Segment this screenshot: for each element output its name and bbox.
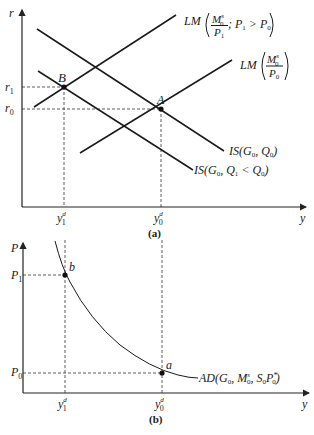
svg-text:LM: LM: [239, 58, 258, 72]
islm-ad-diagram: r y B A r1 r0 yd1 yd0 LM Ms0 P1 ; P1 > P…: [0, 0, 314, 435]
y-axis-label-b: y: [301, 397, 308, 411]
svg-text:LM: LM: [183, 14, 202, 28]
y1d-label-a: yd1: [56, 210, 66, 227]
y1d-label-b: yd1: [57, 396, 67, 413]
ad-label: AD(G0, Ms0, S0P*0): [198, 371, 280, 386]
caption-a: (a): [148, 227, 161, 240]
is0-label: IS(G0, Q0): [228, 144, 277, 159]
point-a-small-marker: [159, 370, 164, 375]
p1-label: P1: [10, 268, 22, 284]
y0d-label-a: yd0: [153, 210, 163, 227]
y0d-label-b: yd0: [154, 396, 164, 413]
is0-curve: [37, 29, 224, 151]
point-a-small-label: a: [166, 358, 172, 372]
point-a-marker: [158, 106, 163, 111]
is1-curve: [38, 71, 193, 170]
panel-b: P y b a P1 P0 yd1 yd0 AD(G0, Ms0, S0P*0)…: [10, 240, 309, 426]
point-b-small-marker: [62, 272, 67, 277]
svg-text:; P1 > P0: ; P1 > P0: [228, 17, 271, 32]
p0-label: P0: [10, 365, 22, 381]
point-b-marker: [61, 84, 66, 89]
point-a-label: A: [156, 93, 165, 107]
svg-text:P1: P1: [213, 26, 225, 40]
caption-b: (b): [149, 413, 163, 426]
r1-label: r1: [5, 80, 14, 96]
lm1-curve: [34, 15, 176, 107]
lm0-label: LM Ms0 P0: [239, 52, 288, 81]
p-axis-label: P: [10, 241, 19, 255]
lm1-label: LM Ms0 P1 ; P1 > P0: [183, 12, 273, 40]
svg-text:P0: P0: [268, 67, 280, 81]
point-b-label: B: [58, 70, 66, 85]
panel-a: r y B A r1 r0 yd1 yd0 LM Ms0 P1 ; P1 > P…: [5, 6, 306, 240]
is1-label: IS(G0, Q1 < Q0): [193, 163, 269, 178]
r-axis-label: r: [9, 6, 14, 20]
ad-curve: [55, 241, 198, 378]
r0-label: r0: [5, 101, 14, 117]
y-axis-label-a: y: [299, 211, 306, 225]
point-b-small-label: b: [69, 260, 75, 274]
